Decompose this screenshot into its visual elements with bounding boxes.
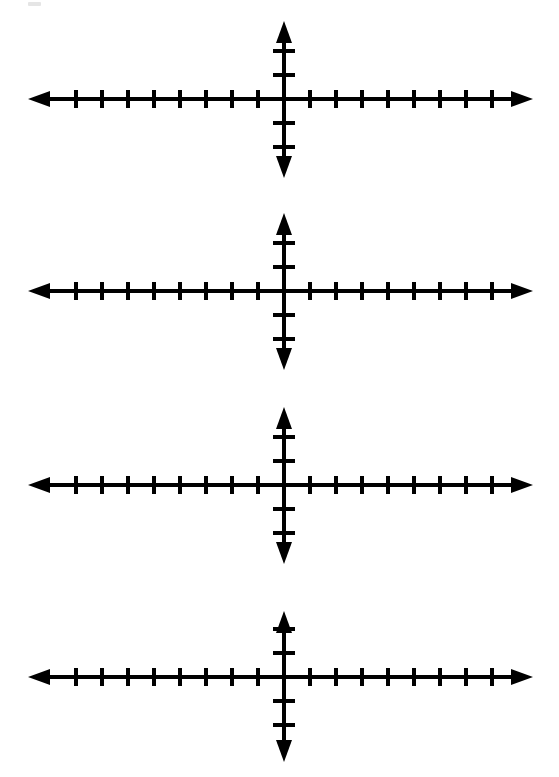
x-axis-arrow-left	[28, 477, 50, 493]
x-axis-arrow-left	[28, 669, 50, 685]
x-axis-arrow-right	[511, 477, 533, 493]
coordinate-grid-figure-4: Coordinate grid 4	[0, 605, 559, 768]
y-axis-arrow-down	[276, 542, 292, 564]
y-axis-arrow-down	[276, 740, 292, 762]
worksheet-page: Coordinate grid 1 Coordinate grid 2 Coor…	[0, 0, 559, 777]
axes-svg	[0, 605, 559, 768]
x-axis-arrow-left	[28, 91, 50, 107]
coordinate-grid-figure-3: Coordinate grid 3	[0, 401, 559, 570]
y-axis-arrow-down	[276, 156, 292, 178]
y-axis-arrow-up	[276, 611, 292, 633]
axes-svg	[0, 401, 559, 570]
x-axis-arrow-right	[511, 283, 533, 299]
y-axis-arrow-down	[276, 348, 292, 370]
coordinate-grid-figure-1: Coordinate grid 1	[0, 15, 559, 184]
coordinate-grid-figure-2: Coordinate grid 2	[0, 207, 559, 376]
y-axis-arrow-up	[276, 213, 292, 235]
axes-svg	[0, 207, 559, 376]
y-axis-arrow-up	[276, 407, 292, 429]
y-axis-arrow-up	[276, 21, 292, 43]
scan-speck-artifact	[28, 2, 41, 6]
x-axis-arrow-right	[511, 91, 533, 107]
x-axis-arrow-right	[511, 669, 533, 685]
axes-svg	[0, 15, 559, 184]
x-axis-arrow-left	[28, 283, 50, 299]
